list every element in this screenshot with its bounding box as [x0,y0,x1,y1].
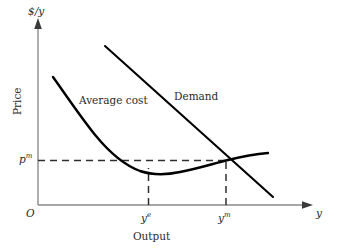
origin-label: O [26,208,35,219]
x-axis-group [38,201,313,209]
average-cost-curve [53,77,268,174]
output-monopoly-superscript: m [224,211,231,219]
y-axis-group [34,18,42,205]
y-axis-arrowhead [34,18,42,29]
output-efficient-tick-label: ye [141,212,151,223]
x-axis-name-label: Output [133,231,170,242]
figure-container: $/y Price O y Output Average cost Demand… [0,0,337,252]
diagram-canvas [0,0,337,252]
y-axis-unit-label: $/y [28,6,44,17]
price-monopoly-superscript: m [26,152,33,160]
x-axis-arrowhead [302,201,313,209]
price-monopoly-base: p [19,153,26,165]
x-axis-unit-label: y [316,208,322,219]
output-efficient-superscript: e [147,211,151,219]
demand-curve [105,46,273,197]
demand-curve-label: Demand [174,91,218,102]
average-cost-curve-label: Average cost [79,95,148,106]
price-monopoly-tick-label: pm [19,153,32,164]
output-monopoly-tick-label: ym [218,212,231,223]
y-axis-name-label: Price [12,75,23,127]
